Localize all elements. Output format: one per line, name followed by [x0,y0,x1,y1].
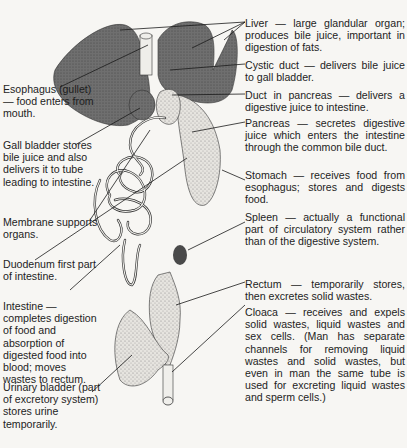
label-duct-in-pancreas: Duct in pancreas — delivers a digestive … [245,89,405,113]
label-intestine: Intestine — completes digestion of food … [3,300,101,385]
label-urinary-bladder: Urinary bladder (part of excretory syste… [3,381,101,430]
cloaca [163,365,173,400]
label-membrane: Membrane supports organs. [3,216,101,240]
label-cloaca: Cloaca — receives and expels solid waste… [245,306,405,404]
label-pancreas: Pancreas — secretes digestive juice whic… [245,117,405,154]
spleen [173,245,187,265]
label-spleen: Spleen — actually a functional part of c… [245,211,405,248]
stomach [177,95,220,205]
label-rectum: Rectum — temporarily stores, then excret… [245,278,405,302]
label-cystic-duct: Cystic duct — delivers bile juice to gal… [245,59,405,83]
label-liver: Liver — large glandular organ; produces … [245,17,405,54]
label-stomach: Stomach — receives food from esophagus; … [245,169,405,206]
label-esophagus: Esophagus (gullet) — food enters from mo… [3,83,101,120]
label-duodenum: Duodenum first part of intestine. [3,258,101,282]
label-gall-bladder: Gall bladder stores bile juice and also … [3,139,101,188]
